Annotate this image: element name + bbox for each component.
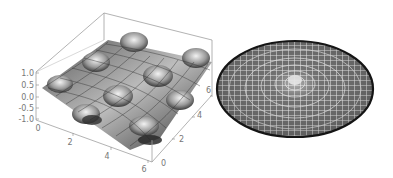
x-tick-label: 4 (104, 152, 109, 161)
y-tick-label: 0 (161, 159, 166, 168)
z-tick-label: -1.0 (18, 115, 34, 124)
x-tick-label: 0 (35, 124, 40, 133)
z-tick-label: -0.5 (18, 104, 34, 113)
disc-surface (210, 35, 380, 145)
z-tick-label: 1.0 (21, 69, 34, 78)
y-tick-label: 2 (179, 135, 184, 144)
surface-plot-canvas: 1.0 0.5 0.0 -0.5 -1.0 0 2 4 6 0 (0, 0, 220, 178)
z-tick-label: 0.5 (21, 81, 34, 90)
y-tick-label: 4 (197, 111, 202, 120)
disc-plot-canvas (210, 0, 393, 178)
surface (42, 32, 212, 150)
x-tick-label: 6 (141, 165, 146, 174)
x-tick-label: 2 (67, 138, 72, 147)
surface-plot-disc (210, 0, 393, 178)
surface-plot-sine: 1.0 0.5 0.0 -0.5 -1.0 0 2 4 6 0 (0, 0, 220, 178)
z-tick-label: 0.0 (21, 93, 34, 102)
